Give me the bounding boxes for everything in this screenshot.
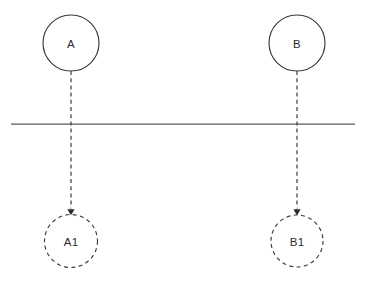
diagram-svg: A B A1 B1 [0,0,366,285]
node-a[interactable]: A [43,15,99,71]
node-b-label: B [293,38,301,50]
node-a-label: A [67,38,75,50]
node-b1[interactable]: B1 [271,215,323,267]
node-b[interactable]: B [269,15,325,71]
node-b1-label: B1 [290,236,304,248]
node-a1-label: A1 [64,236,78,248]
diagram-canvas: A B A1 B1 [0,0,366,285]
node-a1[interactable]: A1 [45,215,98,268]
